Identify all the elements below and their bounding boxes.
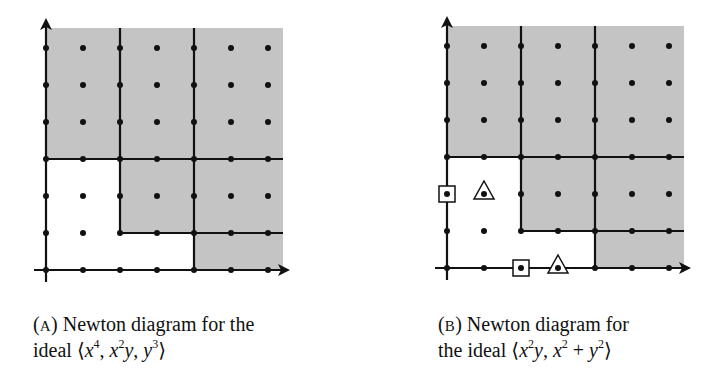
lattice-point xyxy=(555,154,561,160)
lattice-point xyxy=(265,119,271,125)
lattice-point xyxy=(43,156,49,162)
lattice-point xyxy=(444,117,450,123)
lattice-point xyxy=(555,265,561,271)
lattice-point xyxy=(117,230,123,236)
lattice-point xyxy=(117,193,123,199)
newton-diagram-a-svg xyxy=(0,0,300,300)
lattice-point xyxy=(666,43,672,49)
lattice-point xyxy=(228,156,234,162)
lattice-point xyxy=(629,117,635,123)
lattice-point xyxy=(191,267,197,273)
lattice-point xyxy=(444,43,450,49)
caption-b-letter: B xyxy=(445,318,456,334)
lattice-point xyxy=(117,119,123,125)
lattice-point xyxy=(592,265,598,271)
figure-b-newton-diagram xyxy=(401,0,701,300)
lattice-point xyxy=(43,193,49,199)
lattice-point xyxy=(154,267,160,273)
lattice-point xyxy=(228,193,234,199)
lattice-point xyxy=(481,117,487,123)
lattice-point xyxy=(228,267,234,273)
lattice-point xyxy=(481,43,487,49)
lattice-point xyxy=(555,43,561,49)
lattice-point xyxy=(518,191,524,197)
lattice-point xyxy=(228,230,234,236)
lattice-point xyxy=(154,45,160,51)
lattice-point xyxy=(592,43,598,49)
lattice-point xyxy=(43,267,49,273)
lattice-point xyxy=(518,117,524,123)
lattice-point xyxy=(80,193,86,199)
caption-a-line1: Newton diagram for the xyxy=(63,313,255,335)
lattice-point xyxy=(481,265,487,271)
lattice-point xyxy=(666,228,672,234)
lattice-point xyxy=(481,228,487,234)
lattice-point xyxy=(117,156,123,162)
lattice-point xyxy=(444,228,450,234)
lattice-point xyxy=(666,154,672,160)
lattice-point xyxy=(555,80,561,86)
lattice-point xyxy=(629,80,635,86)
lattice-point xyxy=(154,82,160,88)
lattice-point xyxy=(666,191,672,197)
lattice-point xyxy=(666,265,672,271)
lattice-point xyxy=(154,156,160,162)
lattice-point xyxy=(154,193,160,199)
lattice-point xyxy=(518,43,524,49)
lattice-point xyxy=(117,82,123,88)
lattice-point xyxy=(43,45,49,51)
lattice-point xyxy=(191,82,197,88)
lattice-point xyxy=(154,119,160,125)
lattice-point xyxy=(265,156,271,162)
figure-a-newton-diagram xyxy=(0,0,300,300)
lattice-point xyxy=(117,267,123,273)
lattice-point xyxy=(555,191,561,197)
lattice-point xyxy=(518,228,524,234)
lattice-point xyxy=(80,119,86,125)
lattice-point xyxy=(518,154,524,160)
lattice-point xyxy=(80,230,86,236)
lattice-point xyxy=(191,230,197,236)
lattice-point xyxy=(228,82,234,88)
lattice-point xyxy=(154,230,160,236)
lattice-point xyxy=(228,45,234,51)
lattice-point xyxy=(666,80,672,86)
lattice-point xyxy=(518,80,524,86)
newton-diagram-b-svg xyxy=(401,0,701,300)
lattice-point xyxy=(592,228,598,234)
lattice-point xyxy=(592,191,598,197)
lattice-point xyxy=(43,82,49,88)
lattice-point xyxy=(629,265,635,271)
lattice-point xyxy=(191,45,197,51)
lattice-point xyxy=(444,191,450,197)
lattice-point xyxy=(444,80,450,86)
lattice-point xyxy=(629,154,635,160)
caption-b-ideal-word: the ideal xyxy=(438,339,506,361)
lattice-point xyxy=(666,117,672,123)
lattice-point xyxy=(629,191,635,197)
lattice-point xyxy=(80,45,86,51)
lattice-point xyxy=(592,80,598,86)
lattice-point xyxy=(444,265,450,271)
lattice-point xyxy=(481,80,487,86)
lattice-point xyxy=(555,117,561,123)
lattice-point xyxy=(265,267,271,273)
caption-a-letter: A xyxy=(40,318,51,334)
lattice-point xyxy=(265,230,271,236)
lattice-point xyxy=(592,154,598,160)
caption-b: (B) Newton diagram for the ideal ⟨x2y, x… xyxy=(438,312,629,362)
lattice-point xyxy=(629,228,635,234)
lattice-point xyxy=(43,119,49,125)
lattice-point xyxy=(265,193,271,199)
lattice-point xyxy=(555,228,561,234)
lattice-point xyxy=(191,156,197,162)
lattice-point xyxy=(481,154,487,160)
lattice-point xyxy=(80,82,86,88)
lattice-point xyxy=(444,154,450,160)
lattice-point xyxy=(265,45,271,51)
lattice-point xyxy=(80,156,86,162)
lattice-point xyxy=(518,265,524,271)
lattice-point xyxy=(43,230,49,236)
lattice-point xyxy=(191,119,197,125)
caption-b-line1: Newton diagram for xyxy=(467,313,629,335)
